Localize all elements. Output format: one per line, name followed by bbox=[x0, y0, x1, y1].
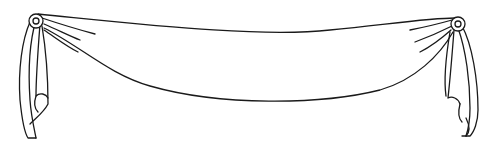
swag-body bbox=[38, 14, 455, 101]
banner-swag-drawing bbox=[0, 0, 499, 156]
right-rosette bbox=[451, 17, 465, 31]
left-tail bbox=[19, 20, 48, 138]
right-tail bbox=[445, 26, 478, 136]
left-rosette bbox=[29, 14, 43, 28]
